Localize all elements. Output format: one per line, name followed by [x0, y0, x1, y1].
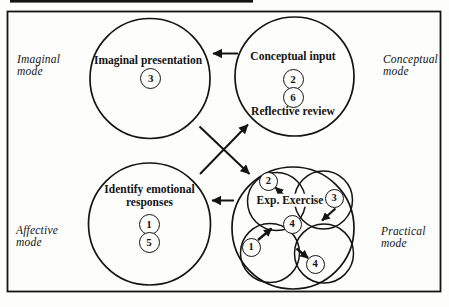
- badge-conceptual-step-bottom: 6: [283, 87, 304, 108]
- arrow-practical-step3: [322, 209, 336, 221]
- badge-imaginal-step: 3: [140, 68, 161, 89]
- diagram-shapes: [0, 0, 449, 307]
- badge-practical-step-1: 1: [242, 238, 261, 257]
- conceptual-circle-title: Conceptual input: [250, 50, 335, 63]
- badge-practical-step-4-bottom: 4: [306, 255, 325, 274]
- mode-label-practical: Practical mode: [381, 225, 426, 250]
- badge-practical-step-2: 2: [259, 172, 278, 191]
- mode-label-affective: Affective mode: [16, 224, 58, 249]
- imaginal-circle-title: Imaginal presentation: [94, 53, 202, 66]
- arrow-practical-step1: [258, 229, 272, 241]
- affective-circle-title: Identify emotional responses: [104, 183, 194, 208]
- practical-circle-title: Exp. Exercise: [255, 194, 326, 207]
- badge-practical-step-3: 3: [325, 189, 344, 208]
- badge-affective-step-bottom: 5: [139, 232, 160, 253]
- arrow-practical-step4: [297, 249, 309, 259]
- mode-label-conceptual: Conceptual mode: [383, 53, 438, 78]
- scan-artifact-line: [10, 0, 253, 3]
- badge-practical-step-4-center: 4: [283, 215, 302, 234]
- mode-label-imaginal: Imaginal mode: [17, 53, 60, 78]
- learning-modes-figure: Imaginal mode Conceptual mode Affective …: [0, 0, 449, 307]
